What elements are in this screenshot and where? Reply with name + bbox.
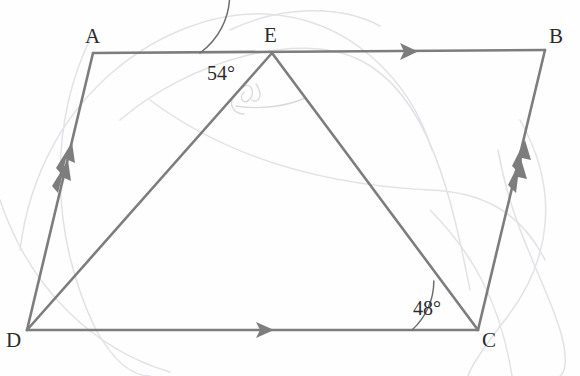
faint-arc-right-outer <box>468 120 546 376</box>
segment-AD <box>27 53 93 330</box>
vertex-label-b: B <box>549 26 563 47</box>
faint-arc-bottom-left <box>0 200 170 372</box>
faint-arc-large-top <box>20 14 432 250</box>
geometry-figure-canvas: A B C D E 54° 48° <box>0 0 580 376</box>
angle-arc-at-E <box>200 0 230 53</box>
vertex-label-c: C <box>482 330 496 351</box>
faint-arc-right-tail <box>498 150 565 376</box>
segment-DE <box>27 53 272 330</box>
vertex-label-a: A <box>85 26 100 47</box>
angle-measure-at-c: 48° <box>413 298 441 318</box>
faint-pencil-scribble <box>232 84 305 114</box>
segment-BC <box>478 50 545 330</box>
vertex-label-e: E <box>264 25 277 46</box>
angle-measure-at-e: 54° <box>207 63 235 83</box>
figure-strokes <box>27 50 545 330</box>
geometry-diagram <box>0 0 580 376</box>
vertex-label-d: D <box>6 330 21 351</box>
segment-AB <box>93 50 545 53</box>
parallel-marks <box>52 43 531 338</box>
